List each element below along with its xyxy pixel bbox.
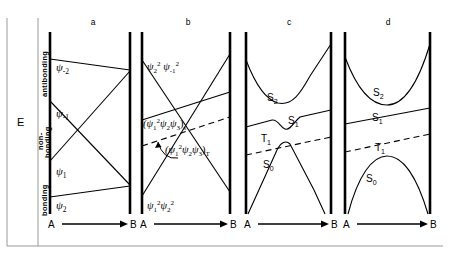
label-psi-minus-2: ψ-2 bbox=[56, 61, 69, 76]
label-psi2sq-psim1sq: ψ22 ψ-12 bbox=[147, 57, 180, 75]
label-psi-1: ψ1 bbox=[56, 165, 67, 180]
panel-c-title: c bbox=[287, 17, 292, 27]
panel-b: b ψ22 ψ-12 (ψ12ψ2ψ3)s (ψ12ψ2ψ3)T ψ12ψ2 bbox=[140, 17, 237, 230]
zone-label-bonding: bonding bbox=[40, 184, 49, 216]
curve-T1-dashed-d bbox=[345, 134, 430, 152]
panel-c-state-curves bbox=[246, 44, 331, 214]
triplet-pointer-head bbox=[155, 142, 162, 148]
panel-d-title: d bbox=[386, 17, 391, 27]
panel-b-x-axis: A B bbox=[140, 219, 237, 230]
panel-b-title: b bbox=[186, 17, 191, 27]
panel-b-labels: ψ22 ψ-12 (ψ12ψ2ψ3)s (ψ12ψ2ψ3)T ψ12ψ22 bbox=[143, 57, 211, 214]
curve-S2 bbox=[246, 44, 331, 103]
label-S1-d: S1 bbox=[372, 112, 383, 125]
panel-a-arrow-head bbox=[120, 221, 128, 228]
panel-a-title: a bbox=[91, 17, 96, 27]
panel-d-x-start: A bbox=[343, 219, 350, 230]
panel-b-x-end: B bbox=[230, 219, 237, 230]
label-config-triplet: (ψ12ψ2ψ3)T bbox=[165, 143, 211, 158]
panel-d-x-end: B bbox=[430, 219, 437, 230]
curve-S1-d bbox=[345, 108, 430, 124]
label-psi-2: ψ2 bbox=[56, 199, 67, 214]
label-T1-d: T1 bbox=[375, 142, 385, 155]
panel-a-x-end: B bbox=[130, 219, 137, 230]
panel-b-x-start: A bbox=[140, 219, 147, 230]
curve-T1-dashed bbox=[246, 137, 331, 155]
label-psi-minus-1: ψ-1 bbox=[56, 107, 69, 122]
panel-a: a ψ-2 ψ-1 ψ1 ψ2 A B bbox=[48, 17, 137, 230]
label-psi1sq-psi2sq: ψ12ψ22 bbox=[147, 199, 175, 214]
curve-S0 bbox=[248, 142, 325, 214]
label-S2-d: S2 bbox=[373, 87, 384, 100]
panel-c: c S2 S1 T1 S0 A B bbox=[244, 17, 338, 230]
panel-c-labels: S2 S1 T1 S0 bbox=[261, 92, 299, 172]
label-T1-c: T1 bbox=[261, 133, 271, 146]
line-triplet-dashed bbox=[142, 117, 230, 146]
label-config-singlet: (ψ12ψ2ψ3)s bbox=[143, 117, 187, 132]
curve-S0-d bbox=[348, 156, 428, 214]
panel-c-x-end: B bbox=[331, 219, 338, 230]
panel-d-state-curves bbox=[345, 44, 430, 214]
panel-d-x-axis: A B bbox=[343, 219, 437, 230]
panel-c-arrow-head bbox=[321, 221, 329, 228]
line-psi-2 bbox=[50, 186, 130, 197]
panel-a-labels: ψ-2 ψ-1 ψ1 ψ2 bbox=[56, 61, 69, 214]
label-S1-c: S1 bbox=[288, 115, 299, 128]
panel-a-x-axis: A B bbox=[48, 219, 137, 230]
panel-c-x-axis: A B bbox=[244, 219, 338, 230]
panel-d: d S2 S1 T1 S0 A B bbox=[343, 17, 437, 230]
figure-root: E antibonding non- bonding bonding a ψ-2… bbox=[0, 0, 450, 261]
page-frame bbox=[7, 18, 443, 246]
y-axis-label: E bbox=[17, 116, 24, 128]
panel-d-arrow-head bbox=[420, 221, 428, 228]
zone-label-antibonding: antibonding bbox=[40, 51, 49, 97]
curve-S2-d bbox=[345, 44, 430, 105]
label-S0-d: S0 bbox=[366, 173, 377, 186]
energy-correlation-diagram: E antibonding non- bonding bonding a ψ-2… bbox=[0, 0, 450, 261]
panel-c-x-start: A bbox=[244, 219, 251, 230]
line-singlet-solid bbox=[142, 92, 230, 120]
panel-b-arrow-head bbox=[220, 221, 228, 228]
panel-a-x-start: A bbox=[48, 219, 55, 230]
label-S2-c: S2 bbox=[267, 92, 278, 105]
